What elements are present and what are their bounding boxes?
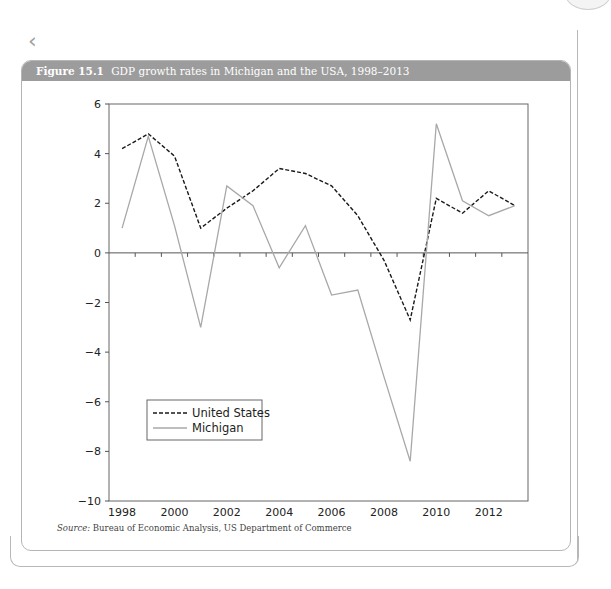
legend: United StatesMichigan — [147, 400, 270, 440]
y-tick-label: 6 — [94, 98, 101, 111]
x-tick-label: 2012 — [475, 506, 503, 519]
y-tick-label: 2 — [94, 197, 101, 210]
x-tick-label: 2002 — [213, 506, 241, 519]
legend-label: United States — [192, 406, 270, 420]
y-tick-label: −8 — [85, 445, 101, 458]
y-tick-label: 0 — [94, 247, 101, 260]
y-tick-label: −2 — [85, 297, 101, 310]
plot-area — [109, 104, 528, 501]
figure-source: Source: Bureau of Economic Analysis, US … — [57, 523, 352, 533]
y-tick-label: −4 — [85, 346, 101, 359]
x-tick-label: 2004 — [265, 506, 293, 519]
x-tick-label: 2006 — [318, 506, 346, 519]
x-tick-label: 2000 — [160, 506, 188, 519]
y-tick-label: −6 — [85, 396, 101, 409]
y-tick-label: −10 — [78, 495, 101, 508]
source-label: Source: — [57, 523, 90, 533]
x-tick-label: 2008 — [370, 506, 398, 519]
series-line-united-states — [122, 134, 515, 320]
legend-label: Michigan — [192, 421, 244, 435]
y-tick-label: 4 — [94, 148, 101, 161]
source-text: Bureau of Economic Analysis, US Departme… — [93, 523, 352, 533]
x-tick-label: 2010 — [422, 506, 450, 519]
x-tick-label: 1998 — [108, 506, 136, 519]
